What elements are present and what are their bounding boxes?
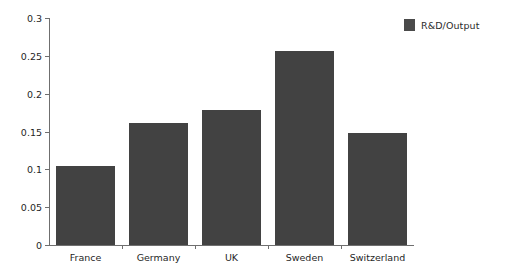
y-axis-tick bbox=[45, 132, 49, 133]
bar bbox=[348, 133, 406, 245]
bar bbox=[129, 123, 187, 245]
y-axis-tick-label: 0 bbox=[36, 240, 42, 251]
y-axis-tick-label: 0.05 bbox=[21, 202, 42, 213]
y-axis-tick-label: 0.1 bbox=[27, 164, 42, 175]
y-axis-tick-label: 0.25 bbox=[21, 50, 42, 61]
x-axis-category-label: France bbox=[70, 252, 102, 263]
y-axis-tick bbox=[45, 94, 49, 95]
x-axis-category-label: Sweden bbox=[286, 252, 324, 263]
y-axis-line bbox=[49, 18, 50, 245]
x-axis-category-label: UK bbox=[225, 252, 238, 263]
y-axis-tick bbox=[45, 169, 49, 170]
y-axis-tick-label: 0.3 bbox=[27, 13, 42, 24]
bar bbox=[202, 110, 260, 245]
x-axis-tick bbox=[341, 245, 342, 249]
y-axis-tick-label: 0.15 bbox=[21, 126, 42, 137]
x-axis-tick bbox=[122, 245, 123, 249]
x-axis-line bbox=[49, 245, 414, 246]
x-axis-tick bbox=[195, 245, 196, 249]
legend-label-rd-output: R&D/Output bbox=[421, 20, 480, 31]
bar bbox=[275, 51, 333, 245]
y-axis-tick bbox=[45, 56, 49, 57]
plot-area: 00.050.10.150.20.250.3 FranceGermanyUKSw… bbox=[49, 18, 414, 245]
bar-chart: R&D/Output 00.050.10.150.20.250.3 France… bbox=[0, 0, 509, 276]
x-axis-category-label: Switzerland bbox=[350, 252, 405, 263]
bar bbox=[56, 166, 114, 245]
x-axis-category-label: Germany bbox=[137, 252, 181, 263]
x-axis-tick bbox=[268, 245, 269, 249]
y-axis-tick bbox=[45, 245, 49, 246]
y-axis-tick bbox=[45, 207, 49, 208]
y-axis-tick bbox=[45, 18, 49, 19]
chart-legend: R&D/Output bbox=[404, 19, 480, 31]
y-axis-tick-label: 0.2 bbox=[27, 88, 42, 99]
